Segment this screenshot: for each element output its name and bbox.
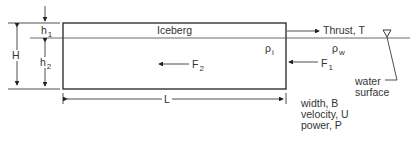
h2-label: h2 — [40, 57, 51, 68]
water-surface-icon — [383, 30, 391, 37]
notes: width, B velocity, U power, P — [301, 98, 349, 131]
L-label: L — [164, 94, 170, 105]
rho-w-label: ρw — [332, 43, 345, 54]
f2-label: F2 — [192, 59, 204, 70]
H-label: H — [12, 50, 20, 61]
iceberg-diagram — [0, 0, 417, 141]
h1-label: h1 — [41, 25, 52, 36]
f1-label: F1 — [321, 58, 333, 69]
rho-i-label: ρi — [265, 43, 274, 54]
note-power: power, P — [301, 120, 349, 131]
water-surface-label: water surface — [355, 76, 389, 98]
iceberg-label: Iceberg — [157, 25, 192, 36]
thrust-label: Thrust, T — [323, 25, 365, 36]
